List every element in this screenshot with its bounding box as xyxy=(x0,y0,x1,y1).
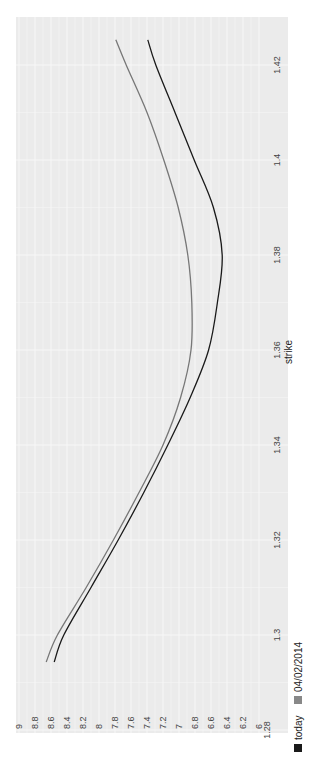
value-tick-label: 6.8 xyxy=(190,716,200,729)
value-tick-label: 7.6 xyxy=(126,716,136,729)
legend-label: today xyxy=(293,716,304,740)
value-tick-label: 7 xyxy=(174,724,184,729)
strike-tick-label: 1.38 xyxy=(272,246,282,264)
legend-swatch xyxy=(294,744,302,752)
legend: today04/02/2014 xyxy=(293,642,304,752)
value-tick-label: 6.4 xyxy=(222,716,232,729)
strike-tick-label: 1.32 xyxy=(272,531,282,549)
value-tick-label: 8.6 xyxy=(46,716,56,729)
value-tick-label: 6.2 xyxy=(238,716,248,729)
value-tick-label: 6.6 xyxy=(206,716,216,729)
strike-tick-label: 1.28 xyxy=(262,721,272,739)
legend-label: 04/02/2014 xyxy=(293,642,304,692)
value-tick-label: 8.4 xyxy=(62,716,72,729)
value-tick-label: 7.4 xyxy=(142,716,152,729)
strike-tick-label: 1.36 xyxy=(272,341,282,359)
value-tick-label: 9 xyxy=(14,724,24,729)
value-tick-label: 8.8 xyxy=(30,716,40,729)
value-tick-label: 8 xyxy=(94,724,104,729)
value-tick-label: 8.2 xyxy=(78,716,88,729)
strike-tick-label: 1.3 xyxy=(272,629,282,642)
legend-swatch xyxy=(294,696,302,704)
strike-tick-label: 1.34 xyxy=(272,436,282,454)
value-tick-label: 7.8 xyxy=(110,716,120,729)
value-tick-label: 7.2 xyxy=(158,716,168,729)
strike-tick-label: 1.4 xyxy=(272,154,282,167)
strike-tick-label: 1.42 xyxy=(272,56,282,74)
volatility-smile-chart: 66.26.46.66.877.27.47.67.888.28.48.68.89… xyxy=(0,0,315,763)
strike-axis-title: strike xyxy=(283,340,294,364)
